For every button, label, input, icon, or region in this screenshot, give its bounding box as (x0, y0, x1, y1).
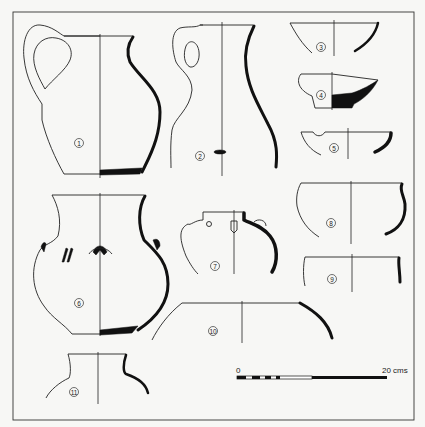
scale-bar: 0 20 cms (236, 366, 408, 379)
svg-text:6: 6 (77, 300, 81, 307)
label-3: 3 (317, 43, 326, 52)
svg-text:9: 9 (330, 276, 334, 283)
pottery-figure: 1 2 3 4 5 6 7 8 9 10 11 0 20 cms (0, 0, 425, 427)
label-7: 7 (211, 262, 220, 271)
vessel-8 (297, 181, 405, 244)
label-9: 9 (328, 275, 337, 284)
vessel-2 (171, 22, 277, 176)
label-6: 6 (75, 299, 84, 308)
vessel-labels: 1 2 3 4 5 6 7 8 9 10 11 (70, 43, 339, 397)
svg-text:3: 3 (319, 44, 323, 51)
vessel-7 (181, 210, 276, 274)
label-1: 1 (75, 139, 84, 148)
label-11: 11 (70, 388, 79, 397)
scale-end-label: 20 cms (382, 366, 408, 375)
label-4: 4 (317, 91, 326, 100)
svg-text:10: 10 (209, 328, 217, 335)
svg-text:7: 7 (213, 263, 217, 270)
svg-text:4: 4 (319, 92, 323, 99)
vessel-11 (46, 352, 148, 404)
vessel-6 (34, 193, 168, 336)
label-5: 5 (330, 144, 339, 153)
label-10: 10 (209, 327, 218, 336)
vessel-9 (304, 254, 401, 292)
vessel-1 (24, 25, 160, 178)
vessel-5 (301, 128, 391, 159)
svg-text:11: 11 (71, 389, 78, 396)
vessel-4 (299, 72, 378, 110)
label-8: 8 (327, 219, 336, 228)
svg-text:8: 8 (329, 220, 333, 227)
scale-start-label: 0 (236, 366, 241, 375)
svg-text:5: 5 (332, 145, 336, 152)
vessel-3 (290, 20, 378, 56)
label-2: 2 (196, 152, 205, 161)
vessel-10 (152, 301, 332, 343)
figure-frame (13, 12, 414, 420)
svg-text:2: 2 (198, 153, 202, 160)
svg-text:1: 1 (77, 140, 81, 147)
